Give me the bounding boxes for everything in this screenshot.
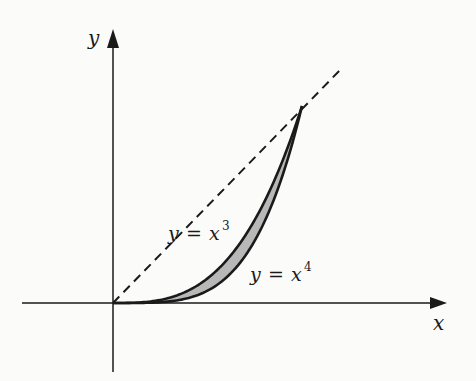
svg-text:=: = (268, 263, 284, 285)
svg-text:=: = (186, 222, 202, 244)
svg-text:y: y (167, 222, 179, 244)
svg-text:4: 4 (304, 260, 312, 274)
svg-text:x: x (209, 222, 220, 244)
label-y-equals-x-fourth: y = x 4 (249, 260, 312, 285)
label-y-equals-x-cubed: y = x 3 (167, 219, 230, 244)
x-axis-arrowhead-icon (430, 297, 447, 309)
svg-text:3: 3 (222, 219, 230, 233)
x-axis-label: x (433, 311, 444, 335)
y-axis-label: y (87, 26, 100, 50)
area-between-curves-diagram: y x y = x 3 y = x 4 (0, 0, 476, 381)
y-axis-arrowhead-icon (107, 29, 119, 48)
svg-text:x: x (291, 263, 302, 285)
svg-text:y: y (249, 263, 261, 285)
